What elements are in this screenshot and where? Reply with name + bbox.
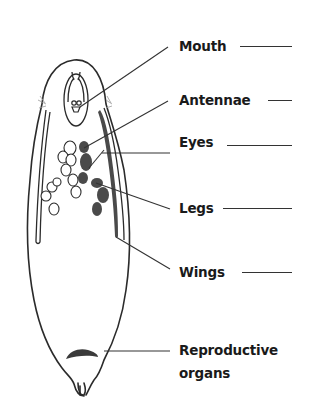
head-capsule: [64, 72, 88, 126]
label-wings: Wings: [179, 264, 225, 281]
label-antennae: Antennae: [179, 92, 251, 109]
label-mouth: Mouth: [179, 38, 226, 55]
leader-antennae: [84, 101, 168, 148]
answer-blank-wings: [242, 272, 292, 273]
label-eyes: Eyes: [179, 134, 213, 151]
label-legs: Legs: [179, 200, 214, 217]
shoulder-bristles: [38, 96, 112, 108]
leader-mouth: [80, 47, 168, 107]
answer-blank-legs: [223, 208, 292, 209]
reproductive-organ: [66, 349, 98, 359]
mouth-parts: [72, 101, 81, 112]
answer-blank-eyes: [227, 145, 292, 146]
leader-wings: [116, 237, 170, 269]
white-organ-cluster: [41, 141, 81, 215]
label-reproductive: Reproductive: [179, 342, 278, 359]
label-reproductive-line2: organs: [179, 365, 230, 382]
left-sheath: [36, 110, 50, 244]
dark-organs: [78, 141, 109, 216]
answer-blank-antennae: [268, 100, 292, 101]
leader-lines: [80, 47, 170, 351]
answer-blank-mouth: [240, 46, 292, 47]
eye-blob: [79, 141, 89, 153]
